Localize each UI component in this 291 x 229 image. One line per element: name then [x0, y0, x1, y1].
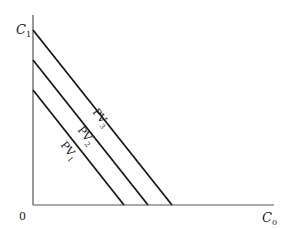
pv3-label: PV3: [88, 106, 112, 131]
origin-label: 0: [19, 210, 26, 223]
y-axis-label: C1: [16, 22, 31, 39]
pv-diagram: C1 0 C0 PV1 PV2 PV3: [0, 0, 291, 229]
pv1-line: [33, 90, 124, 205]
x-axis-label: C0: [262, 210, 277, 227]
pv1-label: PV1: [56, 139, 80, 164]
